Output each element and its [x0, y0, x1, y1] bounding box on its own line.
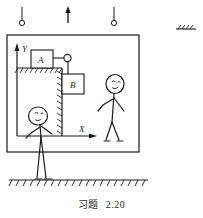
caption-label: 习题: [78, 199, 99, 210]
stick-figure-inside-box: [98, 75, 124, 142]
top-right-hatch-mark: [176, 25, 196, 29]
upward-acceleration-arrow: [65, 6, 70, 23]
physics-diagram: Y X A B: [0, 0, 203, 218]
ground-hatching: [9, 180, 145, 186]
figure-root: Y X A B: [0, 0, 203, 218]
block-b-label: B: [70, 80, 76, 90]
stick-figure-outside-standing-on-ground: [26, 107, 52, 179]
figure-caption: 习题2.20: [0, 196, 203, 211]
coordinate-axes: [15, 43, 97, 138]
axis-label-x: X: [78, 124, 85, 134]
l-shaped-hatched-support: [15, 68, 62, 136]
support-hatching-horizontal: [15, 68, 62, 73]
hatched-ground-line: [9, 180, 148, 186]
caption-number: 2.20: [106, 199, 126, 210]
support-hatching-vertical: [57, 71, 62, 134]
corner-pulley: [64, 54, 71, 61]
block-a-label: A: [37, 55, 44, 65]
hanger-left: [19, 7, 24, 26]
hanger-right: [111, 7, 116, 26]
axis-label-y: Y: [22, 44, 28, 54]
